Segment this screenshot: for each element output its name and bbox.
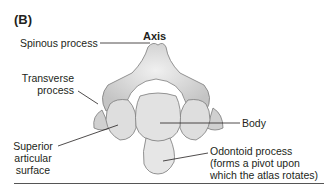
label-body: Body (242, 117, 266, 129)
axis-vertebra-diagram: (B) Axis Spinous process Transverse proc… (0, 0, 334, 192)
vertebral-body (136, 93, 181, 142)
label-superior-articular-2: articular (10, 152, 56, 164)
odontoid-process (143, 138, 174, 174)
leader-transverse (78, 91, 98, 104)
label-transverse-process-2: process (14, 84, 74, 96)
leader-superior (58, 125, 118, 146)
label-spinous-process: Spinous process (20, 37, 98, 49)
label-odontoid-3: which the atlas rotates) (210, 169, 318, 181)
label-odontoid-1: Odontoid process (210, 145, 292, 157)
superior-articular-left (106, 100, 136, 141)
superior-articular-right (180, 100, 210, 141)
label-superior-articular-3: surface (10, 164, 56, 176)
bottom-rule (14, 183, 324, 184)
label-transverse-process-1: Transverse (14, 72, 74, 84)
label-odontoid-2: (forms a pivot upon (210, 157, 300, 169)
label-superior-articular-1: Superior (10, 140, 56, 152)
